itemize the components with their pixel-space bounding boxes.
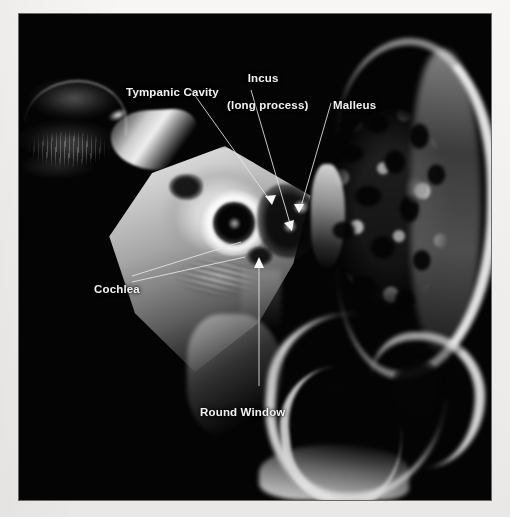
- ct-scan-panel: Tympanic Cavity Incus (long process) Mal…: [19, 14, 491, 500]
- label-tympanic-cavity-text: Tympanic Cavity: [126, 86, 219, 98]
- label-round-window: Round Window: [180, 392, 285, 433]
- hypotympanic-streak: [241, 270, 281, 344]
- label-cochlea-text: Cochlea: [94, 283, 140, 295]
- digastric-ridge: [274, 360, 409, 500]
- label-incus-line2: (long process): [227, 99, 308, 111]
- tympanic-cavity-air: [257, 184, 319, 258]
- label-incus: Incus (long process): [207, 58, 299, 126]
- inferior-bone-plate: [259, 444, 409, 500]
- jugular-fossa-lumen: [294, 375, 375, 482]
- leader-cochlea-upper: [132, 242, 241, 276]
- mastoid-tip-cortex: [257, 307, 453, 500]
- label-round-window-text: Round Window: [200, 406, 285, 418]
- petrous-pyramid: [105, 146, 319, 372]
- label-incus-line1: Incus: [248, 72, 279, 84]
- posterior-trabeculae: [21, 126, 125, 172]
- vestibule-lumen: [169, 174, 203, 200]
- leader-cochlea-lower: [132, 257, 245, 282]
- cochlea-capsule-rim: [199, 190, 269, 256]
- mastoid-dense-islet: [405, 174, 427, 204]
- label-malleus: Malleus: [313, 85, 376, 126]
- arrowhead-tympanic-cavity: [265, 195, 276, 205]
- label-tympanic-cavity: Tympanic Cavity: [106, 72, 219, 113]
- mastoid-trabecular-web: [325, 96, 457, 322]
- figure-page: Tympanic Cavity Incus (long process) Mal…: [0, 0, 510, 517]
- arrowhead-incus: [284, 220, 294, 231]
- petrous-apex-spur: [109, 108, 198, 172]
- mastoid-air-cells: [329, 102, 451, 316]
- malleus-head: [293, 200, 309, 214]
- occipital-condyle-arc: [371, 332, 485, 468]
- cochlea-modiolus: [228, 217, 241, 230]
- label-cochlea: Cochlea: [74, 269, 140, 310]
- incus-body: [283, 220, 297, 233]
- otic-capsule: [159, 164, 289, 276]
- cochlea-lumen: [213, 202, 255, 244]
- lateral-attic-wall: [311, 164, 345, 268]
- sigmoid-sinus-lumen: [391, 358, 443, 420]
- round-window-niche: [247, 246, 273, 266]
- promontory-trabeculae: [169, 250, 279, 304]
- label-malleus-text: Malleus: [333, 99, 376, 111]
- mastoid-cortex-sheen: [411, 50, 481, 350]
- arrowhead-round-window: [254, 257, 264, 268]
- arrowhead-malleus: [294, 204, 304, 213]
